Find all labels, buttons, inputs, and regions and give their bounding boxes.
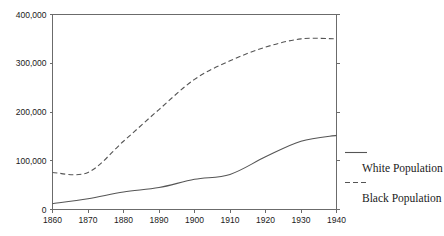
- chart-container: 0100,000200,000300,000400,000 1860187018…: [0, 0, 444, 236]
- y-tick-label: 400,000: [16, 10, 47, 20]
- x-tick-label: 1870: [79, 215, 98, 225]
- y-tick-label: 0: [42, 205, 47, 215]
- x-tick-label: 1880: [114, 215, 133, 225]
- chart-legend: White PopulationBlack Population: [345, 153, 443, 205]
- y-tick-label: 200,000: [16, 107, 47, 117]
- x-tick-label: 1890: [150, 215, 169, 225]
- x-tick-label: 1930: [292, 215, 311, 225]
- series-line-white-population: [53, 135, 337, 203]
- x-tick-label: 1860: [43, 215, 62, 225]
- legend-label: White Population: [362, 162, 443, 175]
- x-tick-label: 1940: [327, 215, 346, 225]
- y-axis-tick-marks: [50, 15, 340, 210]
- y-tick-label: 100,000: [16, 156, 47, 166]
- x-axis-tick-labels: 186018701880189019001910192019301940: [43, 215, 346, 225]
- x-tick-label: 1920: [256, 215, 275, 225]
- series-line-black-population: [53, 38, 337, 174]
- y-tick-label: 300,000: [16, 58, 47, 68]
- x-tick-label: 1910: [221, 215, 240, 225]
- legend-label: Black Population: [362, 192, 442, 205]
- x-tick-label: 1900: [185, 215, 204, 225]
- y-axis-tick-labels: 0100,000200,000300,000400,000: [16, 10, 47, 215]
- line-chart: 0100,000200,000300,000400,000 1860187018…: [0, 0, 444, 236]
